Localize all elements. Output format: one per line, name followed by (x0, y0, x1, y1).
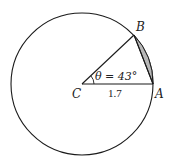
angle-label: θ = 43° (95, 70, 137, 83)
angle-arc (91, 76, 94, 84)
radius-label: 1.7 (108, 87, 122, 99)
point-c-label: C (72, 87, 81, 101)
point-b-label: B (135, 20, 145, 34)
point-a-label: A (154, 87, 164, 101)
circle-diagram: θ = 43° 1.7 C A B (0, 0, 169, 166)
